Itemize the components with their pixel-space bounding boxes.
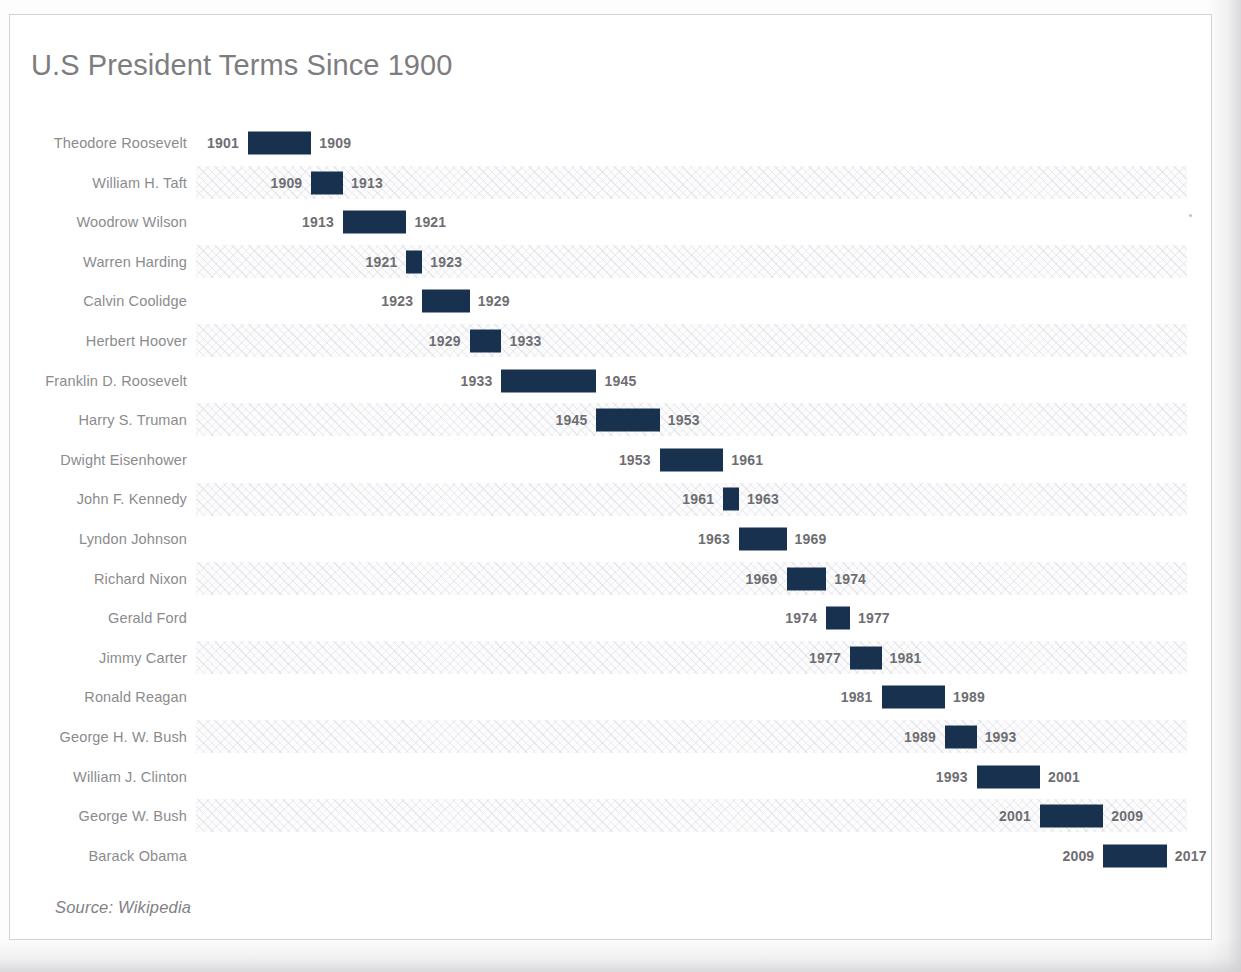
- row-label-dwight-eisenhower: Dwight Eisenhower: [10, 452, 187, 468]
- term-bar[interactable]: [501, 369, 596, 392]
- term-bar[interactable]: [660, 448, 723, 471]
- chart-row: Harry S. Truman19451953: [10, 400, 1212, 440]
- chart-row: William J. Clinton19932001: [10, 757, 1212, 797]
- bar-end-year-label: 1963: [747, 491, 793, 507]
- row-background-band: [196, 364, 1187, 397]
- row-background-band: [196, 562, 1187, 595]
- bar-end-year-label: 1929: [478, 293, 524, 309]
- bar-end-year-label: 1993: [985, 729, 1031, 745]
- row-label-warren-harding: Warren Harding: [10, 254, 187, 270]
- bar-start-year-label: 1961: [668, 491, 714, 507]
- row-background-band: [196, 839, 1187, 872]
- source-note: Source: Wikipedia: [55, 898, 191, 917]
- term-bar[interactable]: [470, 329, 502, 352]
- bar-start-year-label: 1989: [890, 729, 936, 745]
- row-background-band: [196, 799, 1187, 832]
- bar-start-year-label: 1977: [795, 650, 841, 666]
- bar-start-year-label: 1963: [684, 531, 730, 547]
- chart-row: Richard Nixon19691974: [10, 559, 1212, 599]
- term-bar[interactable]: [945, 725, 977, 748]
- bar-end-year-label: 1974: [834, 571, 880, 587]
- term-bar[interactable]: [311, 171, 343, 194]
- chart-row: Woodrow Wilson19131921: [10, 202, 1212, 242]
- bar-end-year-label: 1923: [430, 254, 476, 270]
- bar-end-year-label: 1953: [668, 412, 714, 428]
- chart-row: William H. Taft19091913: [10, 163, 1212, 203]
- chart-row: George W. Bush20012009: [10, 796, 1212, 836]
- row-label-calvin-coolidge: Calvin Coolidge: [10, 293, 187, 309]
- row-label-franklin-d-roosevelt: Franklin D. Roosevelt: [10, 373, 187, 389]
- bar-start-year-label: 2009: [1048, 848, 1094, 864]
- term-bar[interactable]: [343, 211, 406, 234]
- row-label-harry-s-truman: Harry S. Truman: [10, 412, 187, 428]
- bar-end-year-label: 1913: [351, 175, 397, 191]
- scan-artifact-speck: [1189, 214, 1192, 217]
- row-background-band: [196, 601, 1187, 634]
- bar-start-year-label: 1909: [256, 175, 302, 191]
- bar-start-year-label: 1993: [922, 769, 968, 785]
- bar-end-year-label: 1989: [953, 689, 999, 705]
- term-bar[interactable]: [596, 409, 659, 432]
- bar-start-year-label: 1929: [415, 333, 461, 349]
- row-label-jimmy-carter: Jimmy Carter: [10, 650, 187, 666]
- bar-end-year-label: 1921: [414, 214, 460, 230]
- bar-start-year-label: 1913: [288, 214, 334, 230]
- chart-card: U.S President Terms Since 1900 Theodore …: [9, 14, 1212, 940]
- chart-row: George H. W. Bush19891993: [10, 717, 1212, 757]
- row-label-william-h-taft: William H. Taft: [10, 175, 187, 191]
- row-background-band: [196, 641, 1187, 674]
- chart-row: Dwight Eisenhower19531961: [10, 440, 1212, 480]
- bar-end-year-label: 2009: [1111, 808, 1157, 824]
- row-background-band: [196, 324, 1187, 357]
- row-background-band: [196, 166, 1187, 199]
- row-label-herbert-hoover: Herbert Hoover: [10, 333, 187, 349]
- chart-row: Calvin Coolidge19231929: [10, 282, 1212, 322]
- chart-row: Herbert Hoover19291933: [10, 321, 1212, 361]
- term-bar[interactable]: [406, 250, 422, 273]
- chart-row: John F. Kennedy19611963: [10, 480, 1212, 520]
- term-bar[interactable]: [422, 290, 470, 313]
- row-label-lyndon-johnson: Lyndon Johnson: [10, 531, 187, 547]
- bar-end-year-label: 1977: [858, 610, 904, 626]
- scanned-page: U.S President Terms Since 1900 Theodore …: [0, 0, 1241, 972]
- term-bar[interactable]: [826, 607, 850, 630]
- bar-start-year-label: 1923: [367, 293, 413, 309]
- term-bar[interactable]: [977, 765, 1040, 788]
- term-bar[interactable]: [882, 686, 945, 709]
- chart-row: Ronald Reagan19811989: [10, 678, 1212, 718]
- bar-end-year-label: 1969: [795, 531, 841, 547]
- row-label-barack-obama: Barack Obama: [10, 848, 187, 864]
- bar-start-year-label: 1901: [193, 135, 239, 151]
- bar-start-year-label: 1921: [351, 254, 397, 270]
- bar-start-year-label: 1969: [732, 571, 778, 587]
- row-background-band: [196, 245, 1187, 278]
- term-bar[interactable]: [1040, 805, 1103, 828]
- bar-start-year-label: 2001: [985, 808, 1031, 824]
- row-label-george-w-bush: George W. Bush: [10, 808, 187, 824]
- chart-row: Jimmy Carter19771981: [10, 638, 1212, 678]
- row-label-richard-nixon: Richard Nixon: [10, 571, 187, 587]
- bar-start-year-label: 1953: [605, 452, 651, 468]
- chart-row: Franklin D. Roosevelt19331945: [10, 361, 1212, 401]
- term-bar[interactable]: [739, 527, 787, 550]
- row-background-band: [196, 720, 1187, 753]
- bar-start-year-label: 1933: [446, 373, 492, 389]
- chart-row: Theodore Roosevelt19011909: [10, 123, 1212, 163]
- term-bar[interactable]: [850, 646, 882, 669]
- term-bar[interactable]: [248, 131, 311, 154]
- bar-start-year-label: 1945: [541, 412, 587, 428]
- row-label-gerald-ford: Gerald Ford: [10, 610, 187, 626]
- bar-end-year-label: 1945: [604, 373, 650, 389]
- bar-start-year-label: 1974: [771, 610, 817, 626]
- term-bar[interactable]: [1103, 844, 1166, 867]
- bar-end-year-label: 2001: [1048, 769, 1094, 785]
- term-bar[interactable]: [787, 567, 827, 590]
- bar-end-year-label: 1961: [731, 452, 777, 468]
- chart-plot-area: Theodore Roosevelt19011909William H. Taf…: [10, 15, 1212, 940]
- term-bar[interactable]: [723, 488, 739, 511]
- bar-start-year-label: 1981: [827, 689, 873, 705]
- row-label-woodrow-wilson: Woodrow Wilson: [10, 214, 187, 230]
- row-label-william-j-clinton: William J. Clinton: [10, 769, 187, 785]
- bar-end-year-label: 1933: [509, 333, 555, 349]
- row-background-band: [196, 285, 1187, 318]
